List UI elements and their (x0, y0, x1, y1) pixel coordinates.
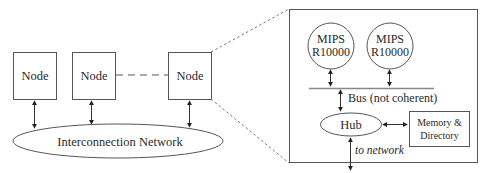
node-1-label: Node (21, 69, 49, 83)
processor-1-line1: MIPS (317, 32, 345, 46)
hub: Hub (321, 113, 382, 136)
node-1: Node (14, 53, 57, 100)
node-detail: MIPS R10000 MIPS R10000 Bus (not coheren… (290, 10, 478, 171)
bus-label: Bus (not coherent) (348, 91, 437, 105)
processor-1: MIPS R10000 (308, 23, 354, 69)
zoom-line-bottom (211, 99, 289, 163)
node-3-label: Node (176, 69, 204, 83)
memory-line1: Memory & (417, 117, 462, 128)
network-label: Interconnection Network (57, 135, 183, 149)
processor-2: MIPS R10000 (367, 23, 413, 69)
processor-2-line1: MIPS (376, 32, 404, 46)
node-2-label: Node (80, 69, 108, 83)
hub-label: Hub (340, 118, 362, 132)
node-2: Node (73, 53, 116, 100)
zoom-line-top (211, 9, 289, 52)
processor-2-line2: R10000 (371, 45, 409, 59)
memory-directory: Memory & Directory (410, 112, 470, 147)
interconnection-network: Interconnection Network (13, 124, 223, 158)
processor-1-line2: R10000 (312, 45, 350, 59)
to-network-label: to network (355, 144, 405, 156)
memory-line2: Directory (420, 130, 458, 141)
architecture-diagram: Node Node Node Interconnection Network M… (0, 0, 491, 173)
node-3: Node (169, 53, 212, 100)
